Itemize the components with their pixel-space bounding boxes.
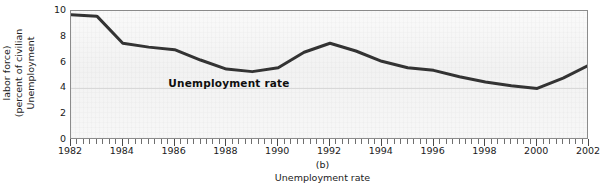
x-axis-minor-tick xyxy=(284,139,285,144)
x-axis-minor-tick xyxy=(407,139,408,144)
x-axis-minor-tick xyxy=(303,139,304,144)
series-annotation-label: Unemployment rate xyxy=(168,77,289,89)
x-axis-minor-tick xyxy=(251,139,252,144)
x-axis-minor-tick xyxy=(478,139,479,144)
x-axis-tick-label: 2002 xyxy=(576,145,600,156)
x-axis-minor-tick xyxy=(258,139,259,144)
x-axis-minor-tick xyxy=(200,139,201,144)
x-axis-minor-tick xyxy=(297,139,298,144)
x-axis-tick-label: 1982 xyxy=(58,145,82,156)
x-axis-tick-label: 1994 xyxy=(369,145,393,156)
x-axis-minor-tick xyxy=(420,139,421,144)
y-axis-title-text: Unemployment (percent of civilian labor … xyxy=(2,28,38,117)
x-axis-minor-tick xyxy=(154,139,155,144)
y-axis-tick-label: 8 xyxy=(52,31,66,41)
y-axis-title-line-2: (percent of civilian xyxy=(14,28,26,117)
x-axis-tick-label: 2000 xyxy=(524,145,548,156)
x-axis-minor-tick xyxy=(355,139,356,144)
y-axis-title-line-3: labor force) xyxy=(2,45,14,100)
x-axis-minor-tick xyxy=(497,139,498,144)
x-axis-minor-tick xyxy=(109,139,110,144)
x-axis-minor-tick xyxy=(523,139,524,144)
x-axis-minor-tick xyxy=(530,139,531,144)
plot-area: Unemployment rate xyxy=(70,10,588,139)
x-axis-tick-label: 1990 xyxy=(265,145,289,156)
x-axis-minor-tick xyxy=(361,139,362,144)
figure-caption: (b) Unemployment rate xyxy=(0,159,601,184)
x-axis-minor-tick xyxy=(368,139,369,144)
x-axis-minor-tick xyxy=(517,139,518,144)
x-axis-minor-tick xyxy=(426,139,427,144)
x-axis-minor-tick xyxy=(232,139,233,144)
x-axis-minor-tick xyxy=(562,139,563,144)
x-axis-minor-tick xyxy=(135,139,136,144)
x-axis-minor-tick xyxy=(413,139,414,144)
x-axis-minor-tick xyxy=(238,139,239,144)
figure-caption-text: Unemployment rate xyxy=(44,171,601,184)
x-axis-tick-labels: 1982198419861988199019921994199619982000… xyxy=(70,145,588,159)
x-axis-minor-tick xyxy=(374,139,375,144)
series-unemployment-rate xyxy=(71,11,588,139)
x-axis-minor-tick xyxy=(342,139,343,144)
x-axis-minor-tick xyxy=(459,139,460,144)
x-axis-minor-tick xyxy=(491,139,492,144)
x-axis-tick-label: 1984 xyxy=(110,145,134,156)
x-axis-minor-tick xyxy=(446,139,447,144)
x-axis-minor-tick xyxy=(193,139,194,144)
x-axis-tick-label: 1988 xyxy=(213,145,237,156)
x-axis-minor-tick xyxy=(569,139,570,144)
x-axis-minor-tick xyxy=(206,139,207,144)
x-axis-minor-tick xyxy=(556,139,557,144)
x-axis-minor-tick xyxy=(471,139,472,144)
x-axis-minor-tick xyxy=(387,139,388,144)
x-axis-minor-tick xyxy=(310,139,311,144)
series-line xyxy=(71,15,588,89)
x-axis-minor-tick xyxy=(115,139,116,144)
x-axis-minor-tick xyxy=(102,139,103,144)
x-axis-minor-tick xyxy=(335,139,336,144)
x-axis-minor-tick xyxy=(180,139,181,144)
x-axis-minor-tick xyxy=(96,139,97,144)
x-axis-minor-tick xyxy=(582,139,583,144)
x-axis-tick-label: 1986 xyxy=(162,145,186,156)
y-axis-tick-label: 0 xyxy=(52,134,66,144)
x-axis-minor-tick xyxy=(89,139,90,144)
x-axis-minor-tick xyxy=(264,139,265,144)
x-axis-minor-tick xyxy=(219,139,220,144)
x-axis-minor-tick xyxy=(290,139,291,144)
x-axis-minor-tick xyxy=(148,139,149,144)
x-axis-minor-tick xyxy=(167,139,168,144)
figure-panel-letter: (b) xyxy=(44,159,601,171)
y-axis-title-line-1: Unemployment xyxy=(26,36,38,109)
y-axis-tick-label: 6 xyxy=(52,57,66,67)
x-axis-minor-tick xyxy=(575,139,576,144)
x-axis-minor-tick xyxy=(161,139,162,144)
x-axis-minor-tick xyxy=(76,139,77,144)
x-axis-minor-tick xyxy=(245,139,246,144)
x-axis-minor-tick xyxy=(504,139,505,144)
x-axis-minor-tick xyxy=(465,139,466,144)
y-axis-tick-label: 4 xyxy=(52,82,66,92)
x-axis-minor-tick xyxy=(271,139,272,144)
y-axis-tick-label: 10 xyxy=(52,5,66,15)
x-axis-minor-tick xyxy=(452,139,453,144)
x-axis-tick-label: 1992 xyxy=(317,145,341,156)
y-axis-tick-label: 2 xyxy=(52,108,66,118)
x-axis-minor-tick xyxy=(187,139,188,144)
x-axis-tick-label: 1998 xyxy=(472,145,496,156)
x-axis-minor-tick xyxy=(316,139,317,144)
x-axis-minor-tick xyxy=(212,139,213,144)
x-axis-minor-tick xyxy=(348,139,349,144)
x-axis-tick-label: 1996 xyxy=(421,145,445,156)
x-axis-minor-tick xyxy=(439,139,440,144)
y-axis-tick-labels: 0246810 xyxy=(48,0,66,150)
x-axis-minor-tick xyxy=(510,139,511,144)
x-axis-minor-tick xyxy=(128,139,129,144)
unemployment-rate-figure: Unemployment (percent of civilian labor … xyxy=(0,0,601,188)
x-axis-minor-tick xyxy=(83,139,84,144)
x-axis-minor-tick xyxy=(549,139,550,144)
x-axis-minor-tick xyxy=(543,139,544,144)
x-axis-minor-tick xyxy=(141,139,142,144)
x-axis-minor-tick xyxy=(394,139,395,144)
x-axis-minor-tick xyxy=(323,139,324,144)
